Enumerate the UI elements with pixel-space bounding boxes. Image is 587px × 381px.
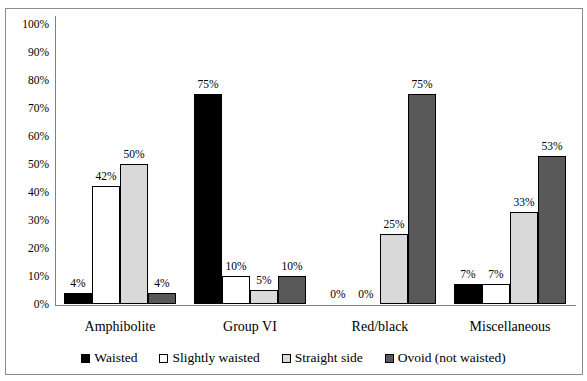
legend-label: Ovoid (not waisted) [398,350,506,366]
legend-swatch-icon [385,354,394,363]
y-tick-label: 10% [9,270,49,282]
value-label: 53% [530,139,574,153]
bar [538,156,566,304]
y-tick-label: 60% [9,130,49,142]
legend-label: Waisted [94,350,137,366]
y-tick-label: 0% [9,298,49,310]
value-label: 75% [400,77,444,91]
y-tick-label: 70% [9,102,49,114]
y-tick-label: 100% [9,18,49,30]
y-tick-label: 40% [9,186,49,198]
category-label: Amphibolite [55,318,185,336]
legend-label: Slightly waisted [172,350,259,366]
bar-chart: 0%10%20%30%40%50%60%70%80%90%100% 4%42%5… [0,0,587,381]
value-label: 10% [214,259,258,273]
legend: WaistedSlightly waistedStraight sideOvoi… [30,349,557,367]
value-label: 10% [270,259,314,273]
y-tick-label: 50% [9,158,49,170]
legend-item: Waisted [81,350,137,366]
bar [510,212,538,304]
legend-item: Straight side [282,350,363,366]
value-label: 4% [140,276,184,290]
y-tick-label: 20% [9,242,49,254]
y-tick-label: 90% [9,46,49,58]
category-label: Miscellaneous [445,318,575,336]
bar [250,290,278,304]
bar [64,293,92,304]
bar [148,293,176,304]
legend-swatch-icon [159,354,168,363]
value-label: 75% [186,77,230,91]
x-axis-line [55,305,576,306]
bar [482,284,510,304]
y-tick-label: 80% [9,74,49,86]
value-label: 50% [112,147,156,161]
legend-item: Ovoid (not waisted) [385,350,506,366]
y-axis-line [55,16,56,305]
category-label: Red/black [315,318,445,336]
legend-label: Straight side [295,350,363,366]
legend-item: Slightly waisted [159,350,259,366]
category-label: Group VI [185,318,315,336]
bar [454,284,482,304]
legend-swatch-icon [81,354,90,363]
bar [380,234,408,304]
bar [278,276,306,304]
bar [408,94,436,304]
legend-swatch-icon [282,354,291,363]
bar [92,186,120,304]
y-tick-label: 30% [9,214,49,226]
